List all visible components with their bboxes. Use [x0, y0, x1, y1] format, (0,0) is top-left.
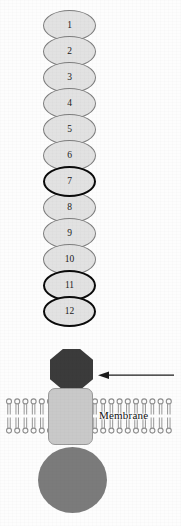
- phospholipid-icon: [31, 418, 36, 434]
- receptor-diagram: 123456789101112 Membrane: [0, 0, 181, 526]
- phospholipid-icon: [39, 399, 44, 415]
- repeat-domain-label: 3: [67, 73, 72, 83]
- repeat-domain-label: 11: [65, 281, 74, 291]
- repeat-domain-label: 5: [67, 125, 72, 135]
- repeat-domain-label: 2: [67, 47, 72, 57]
- repeat-domain-label: 7: [67, 177, 72, 187]
- phospholipid-icon: [23, 399, 28, 415]
- phospholipid-icon: [15, 418, 20, 434]
- repeat-domain-label: 8: [67, 203, 72, 213]
- phospholipid-icon: [150, 418, 155, 434]
- phospholipid-icon: [7, 399, 12, 415]
- phospholipid-icon: [39, 418, 44, 434]
- repeat-domain-label: 6: [67, 151, 72, 161]
- phospholipid-icon: [93, 399, 98, 415]
- phospholipid-icon: [23, 418, 28, 434]
- repeat-domain-label: 1: [67, 21, 72, 31]
- phospholipid-icon: [93, 418, 98, 434]
- phospholipid-icon: [158, 418, 163, 434]
- pointer-arrow-icon: [98, 369, 174, 381]
- transmembrane-domain-shape: [48, 388, 93, 445]
- phospholipid-icon: [158, 399, 163, 415]
- phospholipid-icon: [166, 418, 171, 434]
- repeat-domain-label: 9: [67, 229, 72, 239]
- repeat-domain-label: 4: [67, 99, 72, 109]
- octagon-linker-shape: [50, 349, 93, 390]
- phospholipid-icon: [31, 399, 36, 415]
- repeat-domain-7: 7: [43, 166, 96, 197]
- phospholipid-icon: [166, 399, 171, 415]
- repeat-domain-12: 12: [43, 296, 96, 327]
- phospholipid-icon: [15, 399, 20, 415]
- phospholipid-icon: [7, 418, 12, 434]
- phospholipid-icon: [150, 399, 155, 415]
- repeat-domain-label: 10: [65, 255, 75, 265]
- membrane-label: Membrane: [99, 409, 148, 421]
- repeat-domain-label: 12: [65, 307, 75, 317]
- cytoplasmic-domain-shape: [38, 447, 107, 513]
